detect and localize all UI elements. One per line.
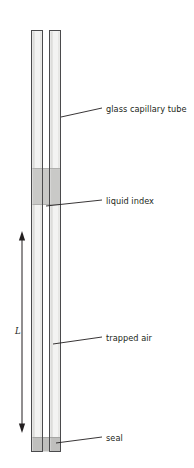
left-wall-inner-shade <box>33 32 35 451</box>
label-seal: seal <box>106 434 123 442</box>
capillary-tube-figure <box>0 0 194 468</box>
right-wall-outer-shade <box>58 32 60 451</box>
seal-left <box>33 437 43 452</box>
dimension-arrowhead-top <box>19 231 25 241</box>
label-glass-capillary-tube: glass capillary tube <box>106 105 187 113</box>
label-length-L: L <box>15 326 21 336</box>
dimension-arrowhead-bottom <box>19 424 25 434</box>
leader-line-glass <box>61 108 102 117</box>
tube-right-wall <box>50 31 61 452</box>
right-wall-inner-shade <box>51 32 53 451</box>
liquid-index-block <box>32 168 61 205</box>
label-trapped-air: trapped air <box>106 334 152 342</box>
label-liquid-index: liquid index <box>106 197 154 205</box>
seal-block <box>32 437 61 452</box>
left-wall-outer-shade <box>40 32 42 451</box>
liquid-index-right <box>51 168 61 205</box>
liquid-index-left <box>33 168 43 205</box>
tube-left-wall <box>32 31 43 452</box>
leader-line-seal <box>56 437 102 443</box>
seal-right <box>51 437 61 452</box>
